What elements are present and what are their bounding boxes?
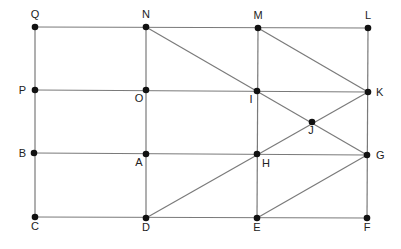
- label-M: M: [253, 9, 262, 21]
- point-B: [31, 150, 38, 157]
- label-G: G: [376, 149, 385, 161]
- label-C: C: [31, 220, 39, 232]
- point-G: [364, 152, 371, 159]
- point-L: [365, 25, 372, 32]
- segment-EG: [257, 155, 367, 218]
- label-H: H: [262, 157, 270, 169]
- segment-MK: [258, 28, 368, 92]
- point-K: [365, 89, 372, 96]
- label-J: J: [308, 124, 314, 136]
- point-P: [32, 87, 39, 94]
- points: [31, 24, 372, 222]
- label-L: L: [365, 9, 371, 21]
- label-D: D: [142, 221, 150, 233]
- line-segments: [34, 27, 368, 218]
- label-A: A: [135, 156, 143, 168]
- label-I: I: [249, 93, 252, 105]
- label-F: F: [364, 221, 371, 233]
- point-Q: [32, 24, 39, 31]
- label-B: B: [19, 147, 26, 159]
- point-H: [254, 151, 261, 158]
- point-O: [143, 87, 150, 94]
- geometry-diagram: QNMLPOIKJBAHGCDEF: [0, 0, 401, 249]
- label-Q: Q: [31, 8, 40, 20]
- label-P: P: [19, 84, 26, 96]
- label-N: N: [142, 8, 150, 20]
- point-M: [255, 25, 262, 32]
- segment-PK: [35, 90, 368, 92]
- label-E: E: [253, 221, 260, 233]
- segment-BG: [34, 153, 367, 155]
- segment-QL: [35, 27, 368, 28]
- point-labels: QNMLPOIKJBAHGCDEF: [19, 8, 385, 233]
- segment-LF: [367, 28, 368, 218]
- point-A: [143, 151, 150, 158]
- label-K: K: [376, 86, 384, 98]
- segment-CF: [35, 217, 367, 218]
- point-N: [143, 24, 150, 31]
- segment-ME: [257, 28, 258, 218]
- label-O: O: [135, 92, 144, 104]
- point-I: [254, 88, 261, 95]
